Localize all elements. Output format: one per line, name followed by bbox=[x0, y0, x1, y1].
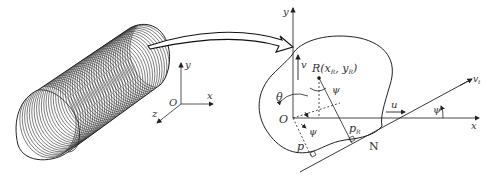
u-label: u bbox=[391, 99, 397, 110]
psi-bottom-label: ψ bbox=[309, 126, 317, 137]
origin-label: O bbox=[169, 97, 177, 108]
reference-point-label: R(xR, yR) bbox=[311, 62, 357, 75]
axis-label-z: z bbox=[151, 108, 158, 119]
line-label: vt bbox=[473, 74, 481, 85]
pR-label: pR bbox=[349, 122, 361, 135]
axis-label-x: x bbox=[471, 120, 477, 131]
N-label: N bbox=[369, 140, 379, 153]
theta-label: θ bbox=[276, 91, 283, 104]
origin-label: O bbox=[279, 113, 288, 126]
tangent-line bbox=[300, 80, 470, 172]
left-axes: y x z O bbox=[151, 59, 213, 123]
right-axes: y x O bbox=[279, 6, 479, 131]
psi-top-label: ψ bbox=[332, 84, 340, 95]
p-label: p bbox=[297, 140, 304, 153]
v-label: v bbox=[301, 59, 307, 70]
axis-label-y: y bbox=[282, 6, 289, 17]
axis-label-x: x bbox=[207, 90, 213, 101]
diagram-canvas: y x z O y x O vt ψ R(xR, yR) ψ ψ θ bbox=[0, 0, 494, 185]
coiled-cylinder bbox=[15, 12, 190, 161]
psi-right-label: ψ bbox=[433, 104, 441, 115]
axis-label-y: y bbox=[184, 59, 191, 70]
connector-arrow bbox=[148, 32, 293, 52]
